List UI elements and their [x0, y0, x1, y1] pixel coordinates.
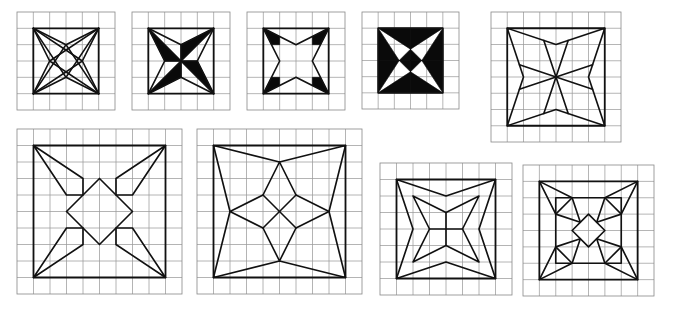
pattern-line [605, 198, 621, 214]
pattern-tile-diamond-arms [17, 129, 182, 294]
pattern-line [34, 146, 84, 196]
grid-pattern-svg [362, 12, 459, 109]
shaded-triangle [399, 61, 410, 72]
pattern-line [556, 198, 572, 214]
shaded-triangle [312, 77, 328, 93]
grid-lines [17, 12, 115, 110]
pattern-tile-pinwheel-star-shaded [132, 12, 230, 110]
grid-lines [523, 165, 654, 296]
grid-pattern-svg [17, 129, 182, 294]
pattern-line [597, 239, 638, 280]
shaded-triangle [399, 49, 410, 60]
pattern-line [539, 239, 580, 280]
pattern-tile-star-corner-triangles [247, 12, 345, 110]
pattern-line [116, 146, 166, 196]
grid-pattern-svg [380, 163, 512, 295]
pattern-line [116, 228, 166, 278]
shaded-triangle [263, 77, 279, 93]
grid-pattern-svg [491, 12, 621, 142]
pattern-line [597, 181, 638, 222]
shaded-triangle [312, 28, 328, 44]
pattern-tile-square-diamond-arms [523, 165, 654, 296]
pattern-tile-double-star [380, 163, 512, 295]
grid-pattern-svg [197, 129, 362, 294]
shaded-triangle [411, 61, 422, 72]
pattern-line [556, 247, 572, 263]
pattern-line [34, 228, 84, 278]
grid-pattern-svg [523, 165, 654, 296]
grid-lines [17, 129, 182, 294]
grid-pattern-svg [247, 12, 345, 110]
shaded-triangle [411, 49, 422, 60]
pattern-tile-star-radial-lines [491, 12, 621, 142]
pattern-tile-nested-star-diamond [197, 129, 362, 294]
pattern-line [539, 181, 580, 222]
pattern-line [605, 247, 621, 263]
grid-pattern-svg [17, 12, 115, 110]
grid-lines [247, 12, 345, 110]
pattern-tile-four-point-star-outline [17, 12, 115, 110]
shaded-triangle [263, 28, 279, 44]
grid-pattern-svg [132, 12, 230, 110]
pattern-tile-pinwheel-quadrants [362, 12, 459, 109]
